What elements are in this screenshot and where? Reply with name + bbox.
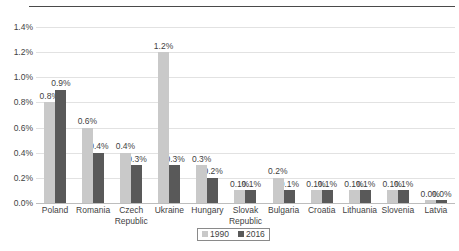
bar-group-bars bbox=[150, 27, 188, 203]
y-axis-tick-label: 0.4% bbox=[0, 148, 33, 157]
bar-1990[interactable] bbox=[387, 190, 398, 203]
top-divider-rule bbox=[29, 6, 455, 7]
y-axis: 1.4%1.2%1.0%0.8%0.6%0.4%0.2%0.0% bbox=[0, 27, 33, 203]
bar-1990[interactable] bbox=[311, 190, 322, 203]
bar-group bbox=[341, 27, 379, 203]
x-axis-label: Slovak Republic bbox=[226, 205, 264, 226]
legend-label: 1990 bbox=[210, 230, 229, 239]
x-axis-label: Lithuania bbox=[341, 205, 379, 216]
bar-group-bars bbox=[341, 27, 379, 203]
chart-legend: 19902016 bbox=[197, 228, 270, 241]
y-axis-tick-label: 0.2% bbox=[0, 174, 33, 183]
bar-1990[interactable] bbox=[349, 190, 360, 203]
bar-1990[interactable] bbox=[234, 190, 245, 203]
gridline bbox=[36, 203, 455, 204]
bar-2016[interactable] bbox=[169, 165, 180, 203]
bar-group bbox=[265, 27, 303, 203]
x-axis-label: Bulgaria bbox=[265, 205, 303, 216]
bar-2016[interactable] bbox=[360, 190, 371, 203]
bar-group-bars bbox=[74, 27, 112, 203]
bar-group bbox=[112, 27, 150, 203]
bar-group bbox=[36, 27, 74, 203]
y-axis-tick-label: 0.0% bbox=[0, 199, 33, 208]
plot-area: 0.8%0.9%0.6%0.4%0.4%0.3%1.2%0.3%0.3%0.2%… bbox=[36, 27, 455, 203]
bar-1990[interactable] bbox=[425, 200, 436, 203]
bar-2016[interactable] bbox=[131, 165, 142, 203]
legend-item-1990[interactable]: 1990 bbox=[202, 230, 229, 239]
bar-1990[interactable] bbox=[158, 52, 169, 203]
bar-group bbox=[303, 27, 341, 203]
x-axis-label: Czech Republic bbox=[112, 205, 150, 226]
bar-group bbox=[188, 27, 226, 203]
bar-group-bars bbox=[226, 27, 264, 203]
bar-group-bars bbox=[188, 27, 226, 203]
x-axis-label: Ukraine bbox=[150, 205, 188, 216]
bar-group-bars bbox=[303, 27, 341, 203]
bar-1990[interactable] bbox=[196, 165, 207, 203]
bar-group bbox=[379, 27, 417, 203]
y-axis-tick-label: 0.6% bbox=[0, 123, 33, 132]
bar-chart: 1.4%1.2%1.0%0.8%0.6%0.4%0.2%0.0% 0.8%0.9… bbox=[0, 0, 459, 251]
x-axis-label: Slovenia bbox=[379, 205, 417, 216]
x-axis-label: Romania bbox=[74, 205, 112, 216]
bar-2016[interactable] bbox=[436, 200, 447, 203]
x-axis-label: Croatia bbox=[303, 205, 341, 216]
bar-group bbox=[74, 27, 112, 203]
bar-group-bars bbox=[379, 27, 417, 203]
bar-group-bars bbox=[417, 27, 455, 203]
legend-swatch-icon bbox=[238, 231, 244, 237]
bar-1990[interactable] bbox=[273, 178, 284, 203]
y-axis-tick-label: 0.8% bbox=[0, 98, 33, 107]
bar-2016[interactable] bbox=[93, 153, 104, 203]
bar-2016[interactable] bbox=[398, 190, 409, 203]
bar-1990[interactable] bbox=[120, 153, 131, 203]
bar-group-bars bbox=[36, 27, 74, 203]
y-axis-tick-label: 1.4% bbox=[0, 23, 33, 32]
bar-2016[interactable] bbox=[55, 90, 66, 203]
bar-group-bars bbox=[112, 27, 150, 203]
x-axis-label: Hungary bbox=[188, 205, 226, 216]
legend-item-2016[interactable]: 2016 bbox=[238, 230, 265, 239]
x-axis-label: Poland bbox=[36, 205, 74, 216]
y-axis-tick-label: 1.2% bbox=[0, 48, 33, 57]
y-axis-tick-label: 1.0% bbox=[0, 73, 33, 82]
bar-group bbox=[150, 27, 188, 203]
bar-2016[interactable] bbox=[322, 190, 333, 203]
legend-swatch-icon bbox=[202, 231, 208, 237]
bar-2016[interactable] bbox=[207, 178, 218, 203]
x-axis-label: Latvia bbox=[417, 205, 455, 216]
bar-group bbox=[417, 27, 455, 203]
bar-group bbox=[226, 27, 264, 203]
bar-2016[interactable] bbox=[284, 190, 295, 203]
bar-1990[interactable] bbox=[82, 128, 93, 203]
bar-group-bars bbox=[265, 27, 303, 203]
bar-1990[interactable] bbox=[44, 102, 55, 203]
bar-2016[interactable] bbox=[245, 190, 256, 203]
legend-label: 2016 bbox=[246, 230, 265, 239]
